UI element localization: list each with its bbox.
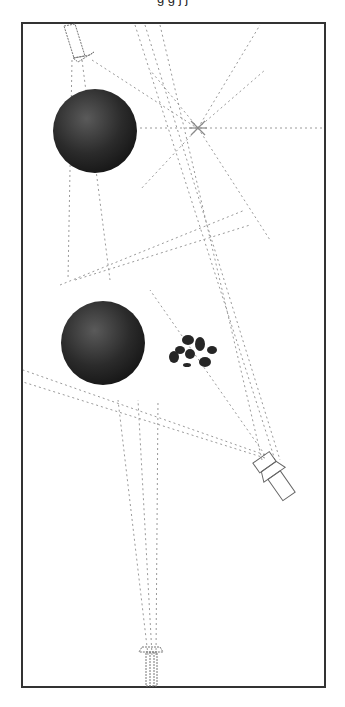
camera-right-icon [251, 449, 300, 503]
rock-cluster [169, 335, 217, 367]
light-star-icon [189, 121, 207, 135]
camera-bottom-icon [139, 647, 163, 686]
scene-diagram [0, 0, 345, 707]
spotlight-icon [64, 24, 94, 62]
sphere-bottom [61, 301, 145, 385]
sphere-top [53, 89, 137, 173]
